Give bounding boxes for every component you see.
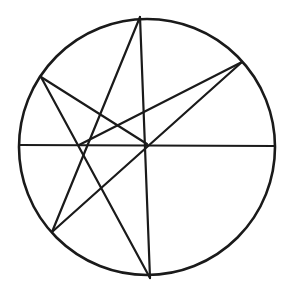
chord-UL-B [41, 77, 150, 278]
segment-UL-C [41, 77, 147, 144]
circle-star-diagram [0, 0, 291, 295]
geometry-figure [0, 0, 291, 295]
